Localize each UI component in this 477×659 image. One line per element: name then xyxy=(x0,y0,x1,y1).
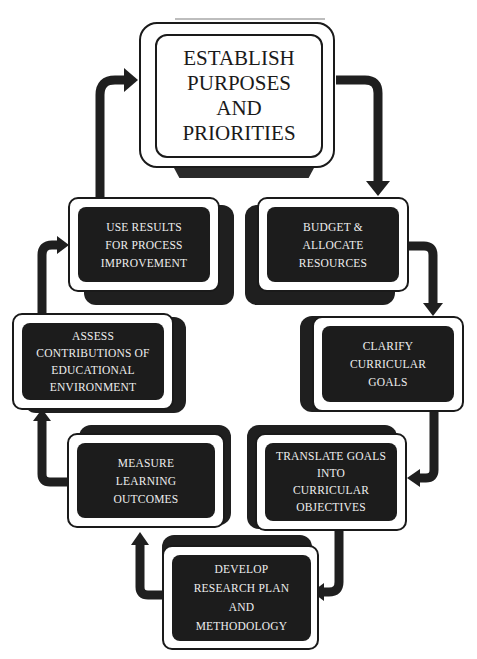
step-establish-purposes: ESTABLISH PURPOSES AND PRIORITIES xyxy=(139,22,339,187)
main-line: PURPOSES xyxy=(187,71,291,96)
arrowhead-establish xyxy=(124,68,138,92)
step-line: RESEARCH PLAN xyxy=(194,579,290,598)
main-line: PRIORITIES xyxy=(182,121,295,146)
step-line: GOALS xyxy=(368,373,407,391)
step-line: CLARIFY xyxy=(363,337,414,355)
step-line: METHODOLOGY xyxy=(196,617,288,636)
step-line: OBJECTIVES xyxy=(296,499,366,516)
step-line: ALLOCATE xyxy=(302,236,363,254)
main-box-frame: ESTABLISH PURPOSES AND PRIORITIES xyxy=(139,22,335,168)
step-line: CURRICULAR xyxy=(293,482,369,499)
step-line: LEARNING xyxy=(116,472,176,490)
main-line: AND xyxy=(216,96,262,121)
step-line: EDUCATIONAL xyxy=(51,362,134,379)
step-line: DEVELOP xyxy=(215,560,269,579)
step-line: AND xyxy=(229,598,255,617)
main-line: ESTABLISH xyxy=(183,46,295,71)
step-line: RESOURCES xyxy=(299,254,367,272)
arrow-develop-to-measure xyxy=(140,543,163,595)
step-line: ENVIRONMENT xyxy=(50,379,137,396)
arrow-clarify-to-translate xyxy=(418,412,434,478)
arrowhead-translate xyxy=(407,469,420,487)
arrowhead-budget xyxy=(366,181,390,196)
arrow-establish-to-budget xyxy=(336,80,378,183)
arrow-assess-to-use xyxy=(42,245,58,316)
step-line: TRANSLATE GOALS xyxy=(276,448,386,465)
arrowhead-measure xyxy=(131,532,149,545)
arrow-budget-to-clarify xyxy=(408,246,433,305)
step-line: MEASURE xyxy=(118,454,174,472)
step-line: CONTRIBUTIONS OF xyxy=(36,345,149,362)
arrow-measure-to-assess xyxy=(42,420,70,482)
step-line: ASSESS xyxy=(72,328,114,345)
step-line: INTO xyxy=(317,465,345,482)
step-line: OUTCOMES xyxy=(114,490,179,508)
step-line: FOR PROCESS xyxy=(105,236,182,254)
arrow-use-to-establish xyxy=(100,80,125,200)
arrowhead-clarify xyxy=(423,303,443,316)
main-box-label: ESTABLISH PURPOSES AND PRIORITIES xyxy=(155,34,323,158)
step-line: USE RESULTS xyxy=(106,218,182,236)
step-line: BUDGET & xyxy=(303,218,363,236)
step-line: CURRICULAR xyxy=(350,355,426,373)
arrow-translate-to-develop xyxy=(322,530,339,592)
step-line: IMPROVEMENT xyxy=(101,254,188,272)
